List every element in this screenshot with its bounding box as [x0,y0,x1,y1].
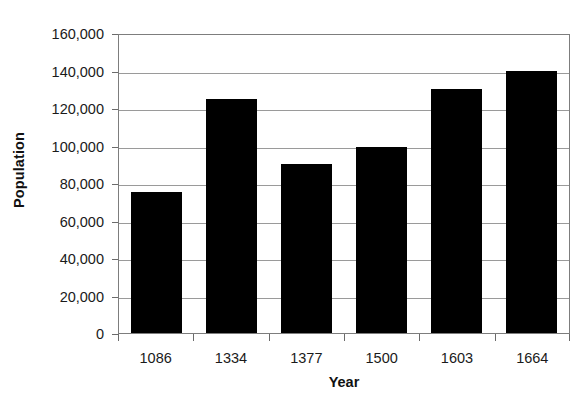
x-axis-tick-mark [118,334,119,341]
y-axis-tick-mark [112,147,118,148]
y-axis-tick-mark [112,297,118,298]
y-axis-tick-mark [112,222,118,223]
bar[interactable] [356,147,407,333]
bars-group [119,35,569,333]
bar-slot [344,35,419,333]
y-axis-title-label: Population [11,132,27,208]
bar-slot [419,35,494,333]
y-axis-tick-mark [112,109,118,110]
bar-slot [269,35,344,333]
y-axis-tick-mark [112,259,118,260]
y-axis-tick-label: 40,000 [32,252,104,266]
x-axis-tick-label: 1334 [193,348,268,370]
bar[interactable] [431,89,482,333]
x-axis-tick-mark [193,334,194,341]
x-axis-tick-mark [569,334,570,341]
bar[interactable] [131,192,182,333]
y-axis-tick-label: 20,000 [32,290,104,304]
x-axis-title: Year [118,374,570,390]
y-axis-tick-mark [112,72,118,73]
x-axis-tick-label: 1664 [495,348,570,370]
bar[interactable] [506,71,557,334]
y-axis-tick-label: 100,000 [32,140,104,154]
bar[interactable] [281,164,332,333]
x-axis-tick-label: 1377 [269,348,344,370]
x-axis-tick-labels: 108613341377150016031664 [118,348,570,370]
y-axis-tick-mark [112,184,118,185]
x-axis-tick-marks [118,334,570,341]
bar[interactable] [206,99,257,333]
x-axis-tick-mark [419,334,420,341]
x-axis-tick-mark [269,334,270,341]
bar-slot [494,35,569,333]
bar-slot [194,35,269,333]
bar-slot [119,35,194,333]
y-axis-tick-label: 120,000 [32,102,104,116]
y-axis-tick-label: 60,000 [32,215,104,229]
x-axis-tick-label: 1500 [344,348,419,370]
y-axis-tick-label: 140,000 [32,65,104,79]
x-axis-tick-mark [495,334,496,341]
y-axis-tick-label: 160,000 [32,27,104,41]
y-axis-tick-label: 80,000 [32,177,104,191]
x-axis-tick-label: 1086 [118,348,193,370]
y-axis-tick-mark [112,34,118,35]
y-axis-tick-labels: 160,000140,000120,000100,00080,00060,000… [38,34,110,334]
population-bar-chart: Population 160,000140,000120,000100,0008… [0,0,586,413]
x-axis-tick-mark [344,334,345,341]
y-axis-tick-label: 0 [32,327,104,341]
plot-area [118,34,570,334]
y-axis-tick-mark [112,334,118,335]
x-axis-tick-label: 1603 [419,348,494,370]
